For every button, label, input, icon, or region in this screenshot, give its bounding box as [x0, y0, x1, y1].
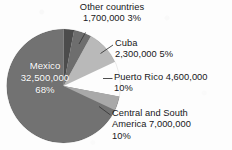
slice-label-puerto-rico-line1: Puerto Rico 4,600,000 — [114, 72, 208, 83]
slice-label-other-countries-line2: 1,700,000 3% — [66, 13, 158, 24]
slice-label-cuba-line1: Cuba — [115, 38, 173, 49]
pie-chart-figure: Other countries 1,700,000 3% Cuba 2,300,… — [0, 0, 232, 150]
slice-label-central-south-america-line1: Central and South — [112, 108, 191, 119]
slice-label-central-south-america-line2: America 7,000,000 — [112, 119, 191, 130]
slice-label-central-south-america: Central and South America 7,000,000 10% — [112, 108, 191, 142]
slice-label-other-countries: Other countries 1,700,000 3% — [66, 2, 158, 25]
slice-label-mexico-line1: Mexico — [6, 60, 84, 72]
slice-label-central-south-america-line3: 10% — [112, 131, 191, 142]
slice-label-mexico-line3: 68% — [6, 84, 84, 96]
slice-label-cuba-line2: 2,300,000 5% — [115, 49, 173, 60]
slice-label-puerto-rico-line2: 10% — [114, 83, 208, 94]
slice-label-other-countries-line1: Other countries — [66, 2, 158, 13]
slice-label-puerto-rico: Puerto Rico 4,600,000 10% — [114, 72, 208, 95]
slice-label-mexico-line2: 32,500,000 — [6, 72, 84, 84]
slice-label-mexico: Mexico 32,500,000 68% — [6, 60, 84, 95]
slice-label-cuba: Cuba 2,300,000 5% — [115, 38, 173, 61]
